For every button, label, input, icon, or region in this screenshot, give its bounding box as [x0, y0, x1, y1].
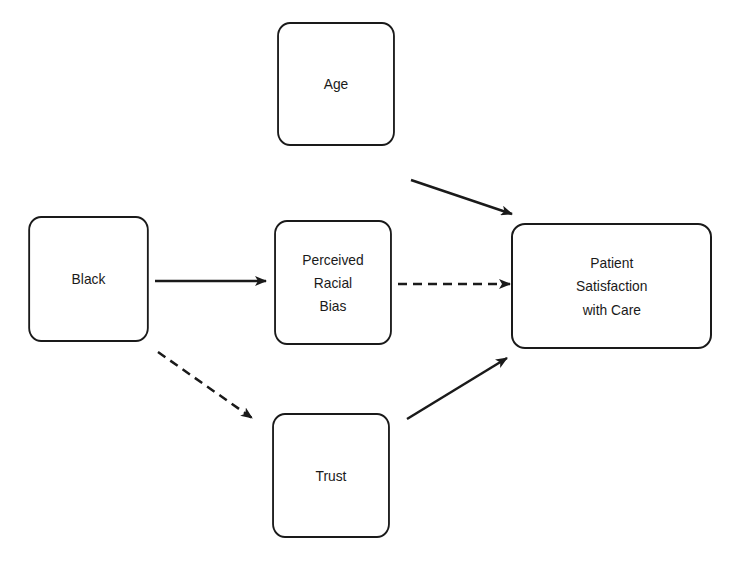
- node-bias-line-3: Bias: [302, 294, 363, 317]
- edge-trust-to-satisfaction: [407, 358, 507, 419]
- node-perceived-racial-bias: Perceived Racial Bias: [274, 220, 392, 345]
- node-bias-line-2: Racial: [302, 271, 363, 294]
- node-age: Age: [277, 22, 395, 146]
- node-bias-line-1: Perceived: [302, 248, 363, 271]
- node-satisfaction-line-2: Satisfaction: [576, 274, 647, 297]
- node-black-label: Black: [72, 267, 106, 290]
- node-black: Black: [28, 216, 149, 342]
- node-satisfaction-line-1: Patient: [576, 251, 647, 274]
- node-trust-label: Trust: [316, 464, 347, 487]
- node-patient-satisfaction: Patient Satisfaction with Care: [511, 223, 712, 349]
- edge-age-to-satisfaction: [411, 180, 512, 214]
- node-trust: Trust: [272, 413, 390, 538]
- node-age-label: Age: [324, 72, 349, 95]
- edge-black-to-trust: [158, 352, 252, 418]
- node-satisfaction-line-3: with Care: [576, 298, 647, 321]
